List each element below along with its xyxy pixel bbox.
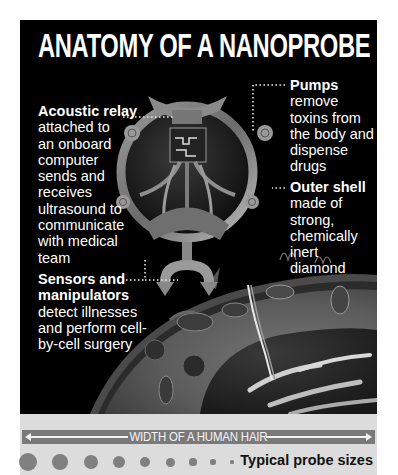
arrow-right-icon	[366, 433, 372, 441]
hair-width-label: WIDTH OF A HUMAN HAIR	[129, 430, 267, 444]
hair-width-bar: WIDTH OF A HUMAN HAIR	[22, 430, 375, 444]
infographic-title: ANATOMY OF A NANOPROBE	[38, 29, 370, 62]
label-outer-shell: Outer shell made of strong, chemically i…	[290, 179, 377, 277]
label-acoustic-relay-heading: Acoustic relay	[38, 103, 168, 119]
probe-size-dot	[84, 455, 99, 470]
leader-pumps	[253, 85, 285, 133]
label-acoustic-relay: Acoustic relay attached to an onboard co…	[38, 103, 168, 266]
hair-width-line-right	[266, 436, 369, 438]
label-sensors: Sensors and manipulators detect illnesse…	[38, 271, 188, 352]
probe-size-dot	[210, 459, 215, 464]
size-scale: WIDTH OF A HUMAN HAIR Typical probe size…	[20, 414, 377, 475]
label-outer-shell-heading: Outer shell	[290, 179, 377, 195]
probe-sizes-label: Typical probe sizes	[240, 452, 373, 468]
label-acoustic-relay-text: attached to an onboard computer sends an…	[38, 119, 168, 266]
probe-size-dot	[166, 458, 175, 467]
probe-size-dot	[52, 454, 68, 470]
infographic-panel: ANATOMY OF A NANOPROBE Acoustic relay at…	[20, 20, 377, 414]
label-pumps-text: remove toxins from the body and dispense…	[290, 93, 377, 174]
probe-size-dot	[19, 453, 37, 471]
label-sensors-heading: Sensors and manipulators	[38, 271, 188, 304]
label-pumps: Pumps remove toxins from the body and di…	[290, 77, 377, 175]
probe-size-dot	[189, 458, 196, 465]
probe-size-dot	[230, 460, 233, 463]
label-outer-shell-text: made of strong, chemically inert diamond	[290, 195, 377, 276]
probe-size-dot	[140, 457, 151, 468]
label-sensors-text: detect illnesses and perform cell- by-ce…	[38, 304, 188, 353]
probe-size-dot	[113, 456, 126, 469]
label-pumps-heading: Pumps	[290, 77, 377, 93]
